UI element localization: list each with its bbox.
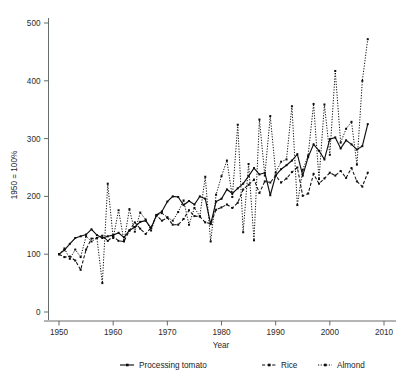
data-point-marker — [193, 215, 195, 217]
data-point-marker — [80, 235, 82, 237]
data-point-marker — [199, 195, 201, 197]
data-point-marker — [367, 172, 369, 174]
x-tick-label: 1990 — [267, 328, 286, 337]
data-point-marker — [275, 175, 277, 177]
data-point-marker — [172, 220, 174, 222]
data-point-marker — [221, 198, 223, 200]
data-point-marker — [367, 38, 369, 40]
data-point-marker — [253, 167, 255, 169]
legend-marker — [268, 364, 271, 367]
x-tick-labels: 1950196019701980199020002010 — [50, 328, 394, 337]
data-point-marker — [237, 124, 239, 126]
data-point-marker — [85, 235, 87, 237]
data-point-marker — [361, 186, 363, 188]
data-point-marker — [351, 167, 353, 169]
legend-item-rice[interactable]: Rice — [262, 361, 298, 370]
data-point-marker — [118, 232, 120, 234]
x-axis-title: Year — [213, 341, 230, 350]
data-point-marker — [258, 192, 260, 194]
data-point-marker — [91, 238, 93, 240]
data-point-marker — [291, 105, 293, 107]
data-point-marker — [69, 258, 71, 260]
data-point-marker — [183, 199, 185, 201]
data-point-marker — [286, 158, 288, 160]
data-point-marker — [275, 172, 277, 174]
data-point-marker — [188, 209, 190, 211]
data-point-marker — [188, 224, 190, 226]
data-point-marker — [226, 188, 228, 190]
data-point-marker — [145, 219, 147, 221]
data-point-marker — [107, 183, 109, 185]
data-point-marker — [91, 240, 93, 242]
data-point-marker — [318, 178, 320, 180]
data-point-marker — [172, 195, 174, 197]
data-point-marker — [286, 177, 288, 179]
y-tick-label: 0 — [36, 308, 41, 317]
data-point-marker — [101, 237, 103, 239]
data-point-marker — [91, 228, 93, 230]
data-point-marker — [356, 180, 358, 182]
data-point-marker — [280, 182, 282, 184]
data-point-marker — [107, 240, 109, 242]
legend-item-almond[interactable]: Almond — [318, 361, 365, 370]
data-point-marker — [334, 70, 336, 72]
data-point-marker — [145, 233, 147, 235]
data-point-marker — [269, 115, 271, 117]
data-point-marker — [307, 193, 309, 195]
data-point-marker — [334, 175, 336, 177]
legend-item-processing-tomato[interactable]: Processing tomato — [120, 361, 207, 370]
y-tick-label: 400 — [27, 77, 41, 86]
data-point-marker — [221, 175, 223, 177]
data-point-marker — [134, 231, 136, 233]
data-point-marker — [340, 147, 342, 149]
data-point-marker — [58, 253, 60, 255]
data-point-marker — [296, 204, 298, 206]
data-point-marker — [139, 221, 141, 223]
chart-legend: Processing tomatoRiceAlmond — [120, 361, 365, 370]
legend-marker — [324, 364, 327, 367]
x-tick-label: 2010 — [375, 328, 394, 337]
data-point-marker — [85, 249, 87, 251]
data-point-marker — [161, 210, 163, 212]
data-point-marker — [313, 103, 315, 105]
data-point-marker — [210, 223, 212, 225]
data-point-marker — [63, 256, 65, 258]
data-point-marker — [166, 216, 168, 218]
data-point-marker — [345, 128, 347, 130]
data-point-marker — [302, 195, 304, 197]
data-point-marker — [177, 211, 179, 213]
data-point-marker — [269, 194, 271, 196]
line-chart: 0100200300400500 19501960197019801990200… — [0, 0, 402, 382]
series-path — [59, 124, 368, 254]
data-point-marker — [334, 136, 336, 138]
data-point-marker — [323, 104, 325, 106]
data-point-marker — [177, 196, 179, 198]
data-point-marker — [345, 139, 347, 141]
data-point-marker — [367, 123, 369, 125]
data-point-marker — [237, 202, 239, 204]
data-point-marker — [258, 119, 260, 121]
data-point-marker — [291, 171, 293, 173]
data-point-marker — [242, 188, 244, 190]
data-point-marker — [139, 212, 141, 214]
data-point-marker — [340, 170, 342, 172]
data-point-marker — [307, 154, 309, 156]
data-point-marker — [101, 235, 103, 237]
series-rice — [58, 167, 369, 271]
data-point-marker — [172, 224, 174, 226]
data-point-marker — [69, 243, 71, 245]
data-point-marker — [329, 172, 331, 174]
data-point-marker — [166, 201, 168, 203]
data-point-marker — [204, 176, 206, 178]
data-point-marker — [340, 142, 342, 144]
data-point-marker — [128, 230, 130, 232]
data-point-marker — [269, 182, 271, 184]
data-point-marker — [177, 224, 179, 226]
data-point-marker — [291, 160, 293, 162]
data-point-marker — [318, 183, 320, 185]
data-point-marker — [248, 184, 250, 186]
data-point-marker — [193, 207, 195, 209]
data-point-marker — [188, 200, 190, 202]
data-point-marker — [204, 198, 206, 200]
data-point-marker — [258, 173, 260, 175]
